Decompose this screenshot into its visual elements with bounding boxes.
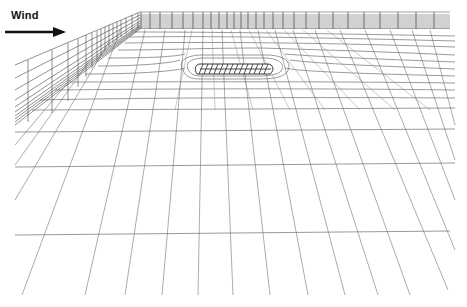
building-block bbox=[195, 64, 273, 74]
mesh-diagram: Wind bbox=[0, 0, 467, 307]
back-wall bbox=[140, 12, 450, 29]
left-wall bbox=[15, 12, 140, 125]
mesh-grid bbox=[0, 0, 467, 307]
